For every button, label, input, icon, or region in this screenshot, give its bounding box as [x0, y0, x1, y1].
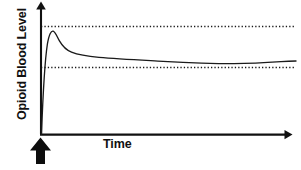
y-axis-label: Opioid Blood Level	[15, 0, 29, 129]
chart-canvas	[0, 0, 301, 170]
figure-opioid-blood-level-vs-time: Opioid Blood Level Time	[0, 0, 301, 170]
x-axis-label: Time	[103, 137, 132, 151]
caption-remnant	[0, 163, 301, 170]
